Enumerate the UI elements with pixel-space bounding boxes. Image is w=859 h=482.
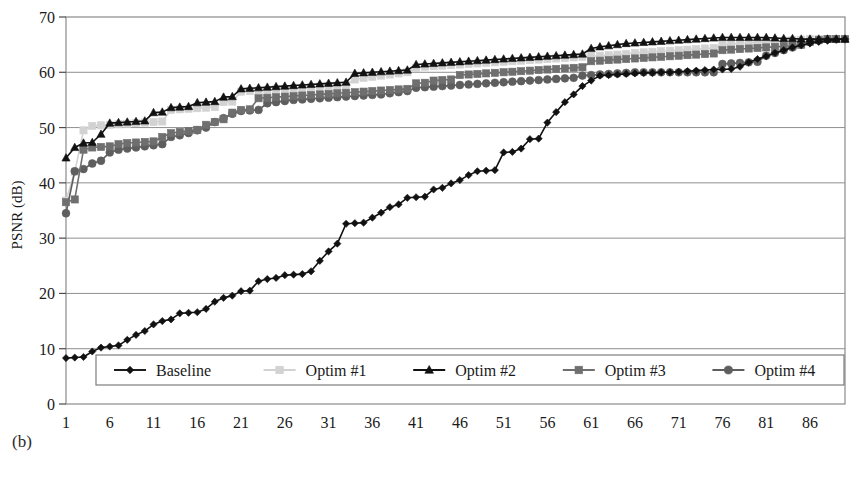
data-point-marker	[552, 75, 560, 83]
data-point-marker	[614, 56, 621, 63]
data-point-marker	[325, 90, 332, 97]
data-point-marker	[500, 78, 508, 86]
legend-label: Optim #4	[754, 362, 815, 380]
data-point-marker	[544, 66, 551, 73]
data-point-marker	[465, 81, 473, 89]
x-tick-label: 36	[364, 414, 380, 431]
data-point-marker	[62, 199, 69, 206]
data-point-marker	[745, 45, 752, 52]
data-point-marker	[588, 58, 595, 65]
data-point-marker	[553, 65, 560, 72]
data-point-marker	[439, 76, 446, 83]
x-tick-label: 81	[758, 414, 774, 431]
data-point-marker	[334, 90, 341, 97]
data-point-marker	[176, 128, 183, 135]
data-point-marker	[579, 64, 586, 71]
data-point-marker	[640, 54, 647, 61]
data-point-marker	[159, 133, 166, 140]
data-point-marker	[579, 72, 587, 80]
x-tick-label: 1	[62, 414, 70, 431]
data-point-marker	[465, 71, 472, 78]
y-tick-label: 20	[39, 285, 55, 302]
data-point-marker	[141, 138, 148, 145]
data-point-marker	[649, 54, 656, 61]
data-point-marker	[456, 81, 464, 89]
y-tick-label: 60	[39, 64, 55, 81]
data-point-marker	[430, 77, 437, 84]
legend-label: Optim #1	[306, 362, 367, 380]
data-point-marker	[307, 91, 314, 98]
x-tick-label: 66	[627, 414, 643, 431]
data-point-marker	[316, 91, 323, 98]
data-point-marker	[561, 74, 569, 82]
data-point-marker	[276, 366, 284, 374]
y-tick-label: 50	[39, 120, 55, 137]
psnr-line-chart: 010203040506070 161116212631364146515661…	[0, 0, 859, 482]
data-point-marker	[369, 87, 376, 94]
data-point-marker	[97, 157, 105, 165]
data-point-marker	[724, 366, 732, 374]
data-point-marker	[150, 118, 157, 125]
x-tick-label: 41	[408, 414, 424, 431]
data-point-marker	[526, 67, 533, 74]
data-point-marker	[211, 118, 218, 125]
x-tick-label: 31	[321, 414, 337, 431]
data-point-marker	[631, 55, 638, 62]
data-point-marker	[754, 44, 761, 51]
subfigure-label: (b)	[12, 432, 32, 452]
data-point-marker	[517, 77, 525, 85]
data-point-marker	[535, 66, 542, 73]
x-tick-label: 76	[714, 414, 730, 431]
y-tick-label: 70	[39, 9, 55, 26]
legend-label: Optim #2	[455, 362, 516, 380]
data-point-marker	[159, 118, 166, 125]
data-point-marker	[150, 138, 157, 145]
data-point-marker	[97, 122, 104, 129]
data-point-marker	[264, 94, 271, 101]
data-point-marker	[684, 52, 691, 59]
figure-container: 010203040506070 161116212631364146515661…	[0, 0, 859, 482]
data-point-marker	[675, 52, 682, 59]
y-tick-label: 30	[39, 230, 55, 247]
data-point-marker	[229, 109, 236, 116]
data-point-marker	[535, 76, 543, 84]
data-point-marker	[413, 80, 420, 87]
data-point-marker	[544, 76, 552, 84]
data-point-marker	[482, 79, 490, 87]
data-point-marker	[666, 53, 673, 60]
data-point-marker	[106, 143, 113, 150]
x-tick-label: 86	[802, 414, 818, 431]
data-point-marker	[351, 89, 358, 96]
y-tick-label: 0	[47, 396, 55, 413]
legend-label: Baseline	[156, 362, 211, 379]
y-axis-title: PSNR (dB)	[9, 181, 26, 250]
data-point-marker	[710, 50, 717, 57]
data-point-marker	[220, 116, 227, 123]
data-point-marker	[404, 85, 411, 92]
data-point-marker	[570, 74, 578, 82]
data-point-marker	[386, 86, 393, 93]
data-point-marker	[395, 86, 402, 93]
data-point-marker	[701, 50, 708, 57]
data-point-marker	[158, 140, 166, 148]
data-point-marker	[719, 47, 726, 54]
chart-legend: BaselineOptim #1Optim #2Optim #3Optim #4	[96, 355, 844, 385]
data-point-marker	[272, 94, 279, 101]
data-point-marker	[658, 53, 665, 60]
data-point-marker	[237, 106, 244, 113]
x-tick-label: 56	[539, 414, 555, 431]
data-point-marker	[509, 68, 516, 75]
data-point-marker	[299, 92, 306, 99]
data-point-marker	[342, 89, 349, 96]
x-tick-label: 26	[277, 414, 293, 431]
data-point-marker	[575, 366, 583, 374]
data-point-marker	[763, 44, 770, 51]
y-axis-label: PSNR (dB)	[9, 181, 26, 250]
plot-frame	[66, 17, 845, 404]
data-point-marker	[255, 106, 263, 114]
data-point-marker	[483, 70, 490, 77]
y-tick-label: 40	[39, 175, 55, 192]
x-tick-label: 51	[496, 414, 512, 431]
data-point-marker	[97, 143, 104, 150]
data-point-marker	[596, 57, 603, 64]
